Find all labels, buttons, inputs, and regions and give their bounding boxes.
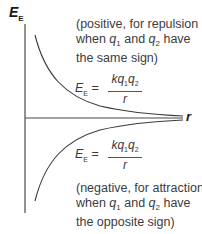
y-axis-label: EE (9, 4, 24, 23)
attraction-annotation: (negative, for attraction when q1 and q2… (76, 181, 202, 230)
repulsion-annotation: (positive, for repulsion when q1 and q2 … (76, 17, 198, 66)
x-axis-label: r (186, 109, 191, 124)
